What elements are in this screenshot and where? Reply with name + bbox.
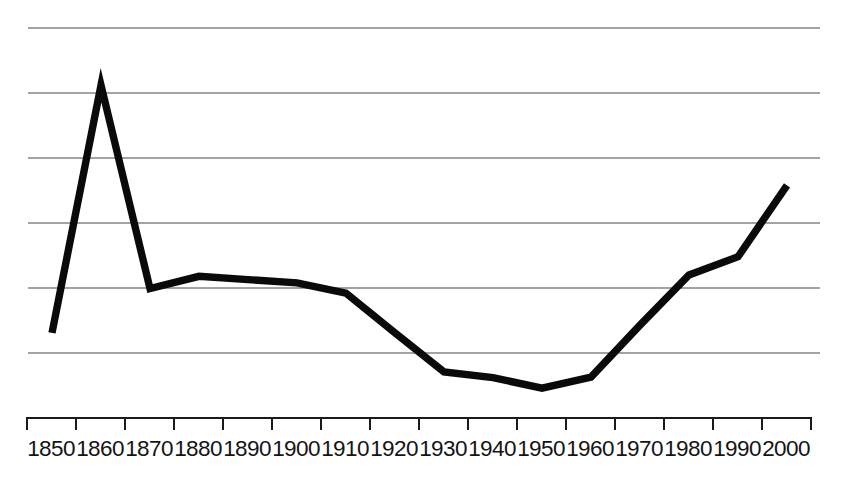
x-axis-label-1880: 1880 bbox=[174, 436, 222, 461]
x-axis-label-1860: 1860 bbox=[76, 436, 124, 461]
chart-canvas: 1850 1860 1870 1880 1890 1900 1910 1920 … bbox=[0, 0, 844, 486]
x-axis-label-1890: 1890 bbox=[223, 436, 271, 461]
line-chart-figure: 1850 1860 1870 1880 1890 1900 1910 1920 … bbox=[0, 0, 844, 486]
x-axis-label-1870: 1870 bbox=[125, 436, 173, 461]
data-series-group bbox=[52, 85, 787, 388]
x-axis-label-1970: 1970 bbox=[615, 436, 663, 461]
x-axis-label-1910: 1910 bbox=[321, 436, 369, 461]
x-axis-label-1940: 1940 bbox=[468, 436, 516, 461]
x-axis-label-1930: 1930 bbox=[419, 436, 467, 461]
x-axis-label-1850: 1850 bbox=[27, 436, 75, 461]
x-axis-group bbox=[26, 418, 812, 430]
x-axis-label-1990: 1990 bbox=[713, 436, 761, 461]
gridlines-group bbox=[28, 28, 820, 353]
data-line-series-1 bbox=[52, 85, 787, 388]
x-axis-label-1960: 1960 bbox=[566, 436, 614, 461]
x-axis-label-1920: 1920 bbox=[370, 436, 418, 461]
x-axis-label-1980: 1980 bbox=[664, 436, 712, 461]
x-axis-labels-group: 1850 1860 1870 1880 1890 1900 1910 1920 … bbox=[27, 436, 810, 461]
x-axis-label-1900: 1900 bbox=[272, 436, 320, 461]
x-axis-label-2000: 2000 bbox=[762, 436, 810, 461]
x-axis-label-1950: 1950 bbox=[517, 436, 565, 461]
